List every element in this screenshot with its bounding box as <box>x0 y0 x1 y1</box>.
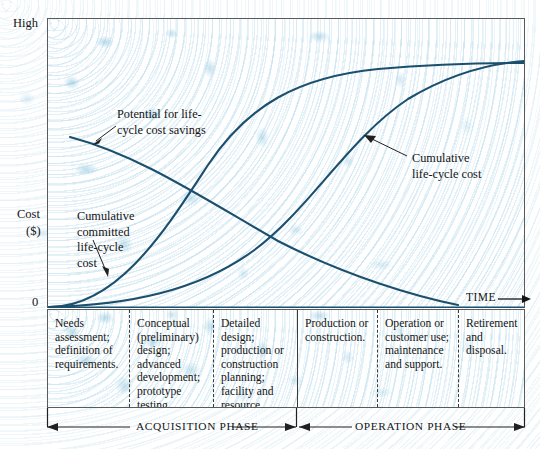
y-axis-top-label: High <box>13 17 38 30</box>
operation-phase-label: OPERATION PHASE <box>355 420 466 432</box>
plot-area: Potential for life- cycle cost savings C… <box>47 18 525 308</box>
y-axis-title: Cost <box>17 208 40 221</box>
y-axis-units: ($) <box>26 225 41 238</box>
annotation-potential-line2: cycle cost savings <box>117 123 206 137</box>
annotation-cumulative-line2: life-cycle cost <box>412 167 481 181</box>
annotation-committed-line3: life-cycle <box>77 240 123 254</box>
annotation-cumulative-line1: Cumulative <box>412 151 469 165</box>
phase-cell-needs-assessment: Needs assessment; definition of requirem… <box>48 310 129 407</box>
time-arrow-icon <box>498 292 534 306</box>
phase-table: Needs assessment; definition of requirem… <box>47 309 525 408</box>
phase-cell-conceptual-design: Conceptual (preliminary) design; advance… <box>129 310 213 407</box>
phase-cell-operation: Operation or customer use; maintenance a… <box>377 310 458 407</box>
phase-cell-retirement: Retirement and disposal. <box>458 310 524 407</box>
x-axis-label: TIME <box>466 291 496 303</box>
annotation-committed-cost: Cumulative committed life-cycle cost <box>77 209 134 271</box>
annotation-potential-line1: Potential for life- <box>117 107 202 121</box>
annotation-cumulative-cost: Cumulative life-cycle cost <box>412 151 481 182</box>
leader-potential-savings <box>92 126 116 145</box>
annotation-committed-line1: Cumulative <box>77 209 134 223</box>
y-axis-zero-label: 0 <box>32 296 38 309</box>
phase-cell-production: Production or construction. <box>297 310 377 407</box>
leader-cumulative-cost <box>364 135 407 156</box>
annotation-potential-savings: Potential for life- cycle cost savings <box>117 107 206 138</box>
life-cycle-cost-figure: High Cost ($) 0 <box>0 0 540 449</box>
annotation-committed-line4: cost <box>77 256 97 270</box>
acquisition-phase-label: ACQUISITION PHASE <box>136 420 259 432</box>
phase-cell-detailed-design: Detailed design; production or construct… <box>213 310 297 407</box>
annotation-committed-line2: committed <box>77 225 130 239</box>
